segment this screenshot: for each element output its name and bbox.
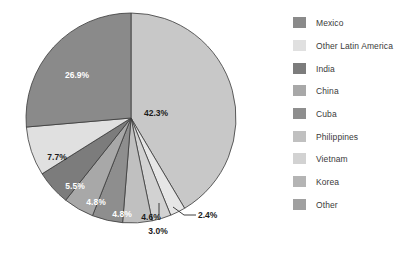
legend-label-philippines: Philippines [316,132,358,142]
legend-item-vietnam[interactable]: Vietnam [293,148,409,171]
legend-label-mexico: Mexico [316,18,344,28]
legend-swatch-vietnam [293,153,307,165]
legend-swatch-other [293,199,307,211]
legend-item-korea[interactable]: Korea [293,171,409,194]
legend-label-other-latin-america: Other Latin America [316,41,393,51]
legend-swatch-mexico [293,17,307,29]
slice-label-mexico: 42.3% [144,108,169,118]
legend-item-cuba[interactable]: Cuba [293,103,409,126]
slice-label-other: 26.9% [65,70,90,80]
legend-item-china[interactable]: China [293,80,409,103]
legend-label-other: Other [316,200,338,210]
legend-item-other-latin-america[interactable]: Other Latin America [293,35,409,58]
slice-label-philippines: 4.8% [86,197,106,207]
legend-swatch-philippines [293,131,307,143]
legend-item-mexico[interactable]: Mexico [293,12,409,35]
legend-item-philippines[interactable]: Philippines [293,125,409,148]
slice-label-vietnam: 5.5% [65,181,85,191]
legend-item-india[interactable]: India [293,57,409,80]
legend-label-india: India [316,64,335,74]
legend-swatch-korea [293,176,307,188]
slice-label-korea: 7.7% [47,152,67,162]
slice-label-other-latin-america: 2.4% [198,210,218,220]
legend-label-china: China [316,86,339,96]
legend-swatch-other-latin-america [293,40,307,52]
slice-label-china: 4.6% [141,212,161,222]
legend-item-other[interactable]: Other [293,194,409,217]
slice-label-india: 3.0% [148,226,168,236]
legend-label-korea: Korea [316,177,339,187]
legend-label-cuba: Cuba [316,109,337,119]
legend-swatch-india [293,63,307,75]
slice-label-cuba: 4.8% [112,209,132,219]
legend-label-vietnam: Vietnam [316,154,348,164]
legend-swatch-cuba [293,108,307,120]
legend-swatch-china [293,85,307,97]
pie-slice-group [26,13,236,223]
pie-chart-figure: 42.3% 26.9% 7.7% 5.5% 4.8% 4.8% 4.6% 3.0… [0,0,412,261]
chart-legend: Mexico Other Latin America India China C… [293,12,409,216]
